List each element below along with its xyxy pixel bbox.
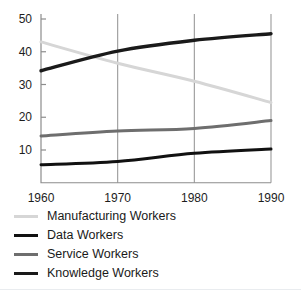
legend-item[interactable]: Data Workers (14, 226, 294, 245)
y-axis-tick-marks (41, 19, 46, 150)
y-tick-label: 10 (19, 143, 33, 157)
legend-color-swatch (14, 253, 38, 256)
plot-svg: 1020304050 1960197019801990 (0, 0, 301, 206)
series-line-manufacturing-workers (41, 42, 271, 103)
x-tick-label: 1970 (104, 191, 131, 205)
y-tick-label: 20 (19, 110, 33, 124)
legend-item[interactable]: Manufacturing Workers (14, 207, 294, 226)
legend-color-swatch (14, 272, 38, 276)
series-line-service-workers (41, 121, 271, 136)
legend-item-label: Knowledge Workers (47, 266, 159, 281)
legend-item-label: Data Workers (47, 228, 123, 243)
x-tick-label: 1980 (181, 191, 208, 205)
legend-color-swatch (14, 234, 38, 237)
x-tick-label: 1960 (28, 191, 55, 205)
legend-item[interactable]: Knowledge Workers (14, 264, 294, 283)
plot-area: 1020304050 1960197019801990 (0, 0, 301, 206)
y-tick-label: 30 (19, 78, 33, 92)
legend-item-label: Manufacturing Workers (47, 209, 176, 224)
legend-item-label: Service Workers (47, 247, 138, 262)
chart-legend: Manufacturing WorkersData WorkersService… (14, 207, 294, 283)
data-series-lines (41, 34, 271, 165)
legend-item[interactable]: Service Workers (14, 245, 294, 264)
y-tick-label: 50 (19, 12, 33, 26)
y-axis-tick-labels: 1020304050 (19, 12, 33, 157)
x-axis-tick-labels: 1960197019801990 (28, 191, 285, 205)
line-chart-figure: 1020304050 1960197019801990 Manufacturin… (0, 0, 301, 290)
legend-color-swatch (14, 215, 38, 218)
y-tick-label: 40 (19, 45, 33, 59)
x-tick-label: 1990 (258, 191, 285, 205)
series-line-data-workers (41, 149, 271, 165)
